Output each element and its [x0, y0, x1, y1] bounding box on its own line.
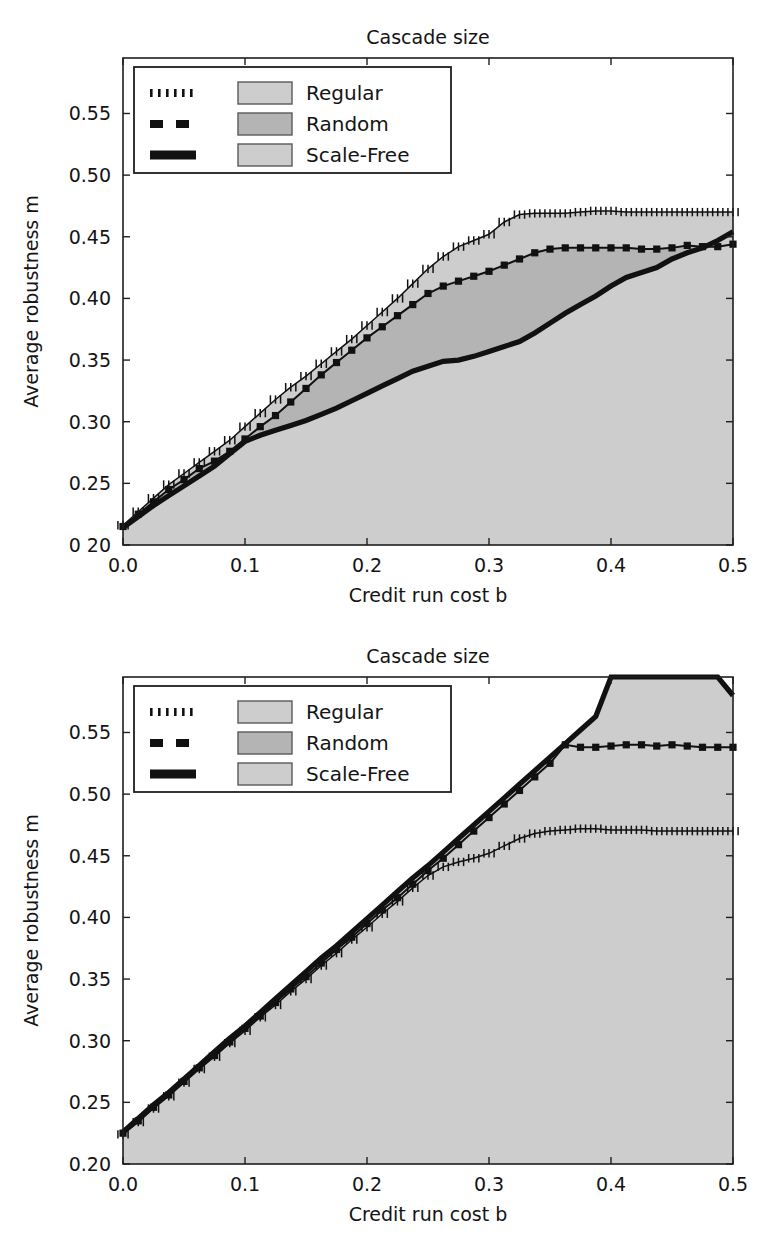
marker-square [272, 412, 279, 419]
legend-label: Random [306, 731, 389, 755]
legend-line-dashed [176, 739, 189, 747]
y-tick-label: 0.40 [69, 906, 111, 928]
marker-square [592, 244, 599, 251]
y-axis-title: Average robustness m [20, 814, 42, 1027]
marker-square [455, 278, 462, 285]
legend-line-dotted [150, 708, 153, 716]
marker-square [333, 359, 340, 366]
chart-title: Cascade size [366, 645, 490, 667]
y-tick-label: 0.20 [69, 1153, 111, 1175]
marker-square [394, 312, 401, 319]
legend: RegularRandomScale-Free [134, 686, 451, 792]
legend-line-dotted [158, 708, 161, 716]
marker-square [577, 744, 584, 751]
x-axis-title: Credit run cost b [349, 1203, 508, 1225]
chart-svg-top: 0.00.10.20.30.40.5Credit run cost b0 200… [0, 0, 776, 618]
y-tick-label: 0.55 [69, 721, 111, 743]
marker-square [592, 744, 599, 751]
x-tick-label: 0.3 [474, 1173, 504, 1195]
legend-line-solid [150, 151, 196, 160]
marker-square [699, 744, 706, 751]
chart-panel-top: 0.00.10.20.30.40.5Credit run cost b0 200… [0, 0, 776, 618]
legend-line-dotted [174, 89, 177, 97]
x-tick-label: 0.3 [474, 554, 504, 576]
marker-square [562, 244, 569, 251]
y-tick-label: 0.55 [69, 102, 111, 124]
legend-line-dotted [190, 89, 193, 97]
legend-swatch [238, 82, 292, 104]
marker-square [714, 744, 721, 751]
legend-line-dotted [182, 708, 185, 716]
legend-label: Random [306, 112, 389, 136]
x-tick-label: 0.4 [596, 554, 626, 576]
y-tick-label: 0 20 [69, 534, 111, 556]
y-tick-label: 0.40 [69, 287, 111, 309]
y-tick-label: 0.50 [69, 783, 111, 805]
x-tick-label: 0.2 [352, 1173, 382, 1195]
y-tick-label: 0.35 [69, 968, 111, 990]
marker-square [440, 282, 447, 289]
legend-line-dotted [150, 89, 153, 97]
legend-label: Scale-Free [306, 762, 409, 786]
y-tick-label: 0.35 [69, 349, 111, 371]
x-tick-label: 0.0 [108, 1173, 138, 1195]
x-tick-label: 0.5 [718, 554, 748, 576]
marker-square [287, 398, 294, 405]
marker-square [623, 741, 630, 748]
marker-square [653, 246, 660, 253]
legend-line-dotted [174, 708, 177, 716]
figure-page: 0.00.10.20.30.40.5Credit run cost b0 200… [0, 0, 776, 1237]
marker-square [409, 301, 416, 308]
marker-square [577, 244, 584, 251]
legend-swatch [238, 763, 292, 785]
y-tick-label: 0.30 [69, 411, 111, 433]
y-tick-label: 0.25 [69, 1091, 111, 1113]
marker-square [379, 323, 386, 330]
chart-svg-bottom: 0.00.10.20.30.40.5Credit run cost b0.200… [0, 619, 776, 1237]
marker-square [653, 742, 660, 749]
marker-square [470, 273, 477, 280]
marker-square [516, 255, 523, 262]
legend-swatch [238, 701, 292, 723]
chart-body-top: 0.00.10.20.30.40.5Credit run cost b0 200… [20, 26, 748, 606]
legend-line-dotted [182, 89, 185, 97]
x-tick-label: 0.1 [230, 554, 260, 576]
legend-swatch [238, 113, 292, 135]
y-tick-label: 0.45 [69, 226, 111, 248]
x-tick-label: 0.1 [230, 1173, 260, 1195]
marker-square [684, 242, 691, 249]
marker-square [363, 334, 370, 341]
legend-swatch [238, 732, 292, 754]
x-tick-label: 0.2 [352, 554, 382, 576]
chart-panel-bottom: 0.00.10.20.30.40.5Credit run cost b0.200… [0, 619, 776, 1237]
x-axis-title: Credit run cost b [349, 584, 508, 606]
legend-label: Regular [306, 700, 383, 724]
legend-line-dotted [158, 89, 161, 97]
legend-line-dashed [150, 120, 163, 128]
legend-swatch [238, 144, 292, 166]
marker-square [196, 465, 203, 472]
marker-square [348, 347, 355, 354]
x-tick-label: 0.5 [718, 1173, 748, 1195]
marker-square [302, 385, 309, 392]
marker-square [546, 246, 553, 253]
marker-square [607, 244, 614, 251]
marker-square [623, 244, 630, 251]
legend: RegularRandomScale-Free [134, 67, 451, 173]
marker-square [638, 741, 645, 748]
marker-square [531, 249, 538, 256]
marker-square [485, 268, 492, 275]
legend-label: Scale-Free [306, 143, 409, 167]
legend-line-dashed [176, 120, 189, 128]
x-tick-label: 0.4 [596, 1173, 626, 1195]
chart-title: Cascade size [366, 26, 490, 48]
marker-square [318, 371, 325, 378]
marker-square [501, 262, 508, 269]
marker-square [668, 244, 675, 251]
y-tick-label: 0.30 [69, 1030, 111, 1052]
y-tick-label: 0.25 [69, 472, 111, 494]
legend-line-dotted [166, 89, 169, 97]
area-fills [123, 211, 733, 545]
marker-square [257, 423, 264, 430]
legend-line-dotted [166, 708, 169, 716]
